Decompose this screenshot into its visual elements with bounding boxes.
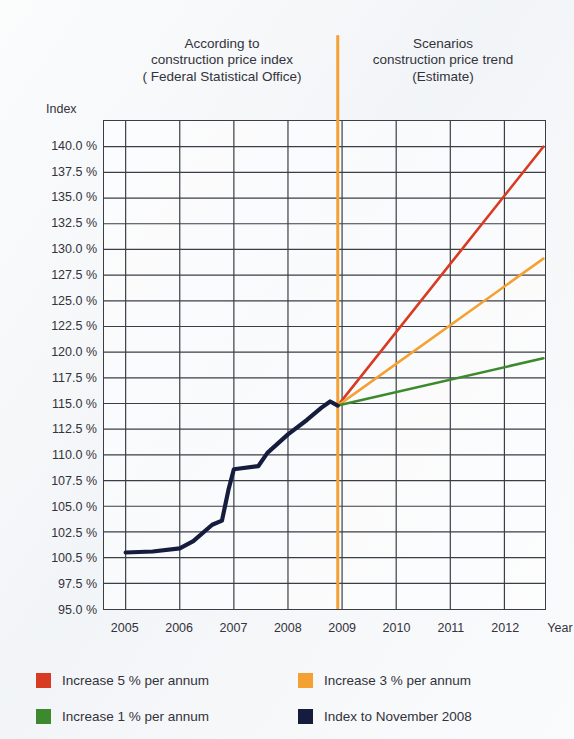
legend-label: Increase 1 % per annum (62, 709, 209, 724)
x-tick-label: 2007 (220, 621, 248, 635)
x-tick-label: 2005 (111, 621, 139, 635)
legend-swatch-icon (298, 673, 313, 688)
legend-index-nov-2008: Index to November 2008 (298, 709, 546, 724)
legend-swatch-icon (298, 709, 313, 724)
series-line-increase-5-per-annum (338, 147, 544, 406)
series-line-increase-3-per-annum (338, 259, 544, 406)
legend-label: Index to November 2008 (324, 709, 472, 724)
x-tick-label: 2006 (165, 621, 193, 635)
x-tick-label: 2009 (328, 621, 356, 635)
legend-increase-3: Increase 3 % per annum (298, 673, 546, 688)
x-tick-label: 2011 (437, 621, 464, 635)
plot-area (103, 120, 546, 610)
x-tick-label: 2010 (383, 621, 411, 635)
series-line-index-to-november-2008 (126, 401, 338, 552)
legend-increase-5: Increase 5 % per annum (36, 673, 298, 688)
data-series (104, 121, 545, 609)
legend-swatch-icon (36, 709, 51, 724)
legend-increase-1: Increase 1 % per annum (36, 709, 298, 724)
x-tick-label: 2012 (491, 621, 519, 635)
legend-label: Increase 5 % per annum (62, 673, 209, 688)
chart-legend: Increase 5 % per annumIncrease 3 % per a… (36, 662, 546, 734)
x-tick-label: 2008 (274, 621, 302, 635)
legend-label: Increase 3 % per annum (324, 673, 471, 688)
x-axis-title: Year (547, 621, 572, 635)
chart-page: According to construction price index ( … (0, 0, 574, 739)
legend-swatch-icon (36, 673, 51, 688)
